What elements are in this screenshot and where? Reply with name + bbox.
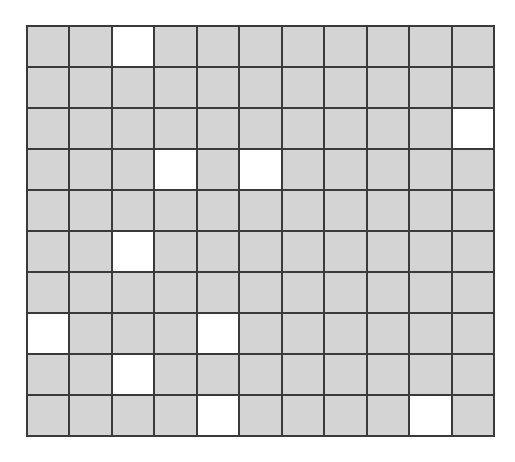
grid-cell-filled xyxy=(367,108,409,149)
grid-cell-filled xyxy=(197,190,239,231)
grid-cell-filled xyxy=(324,313,366,354)
grid-cell-filled xyxy=(452,26,494,67)
grid-cell-filled xyxy=(282,108,324,149)
grid-cell-filled xyxy=(409,190,451,231)
grid-cell-filled xyxy=(367,231,409,272)
grid-cell-filled xyxy=(239,26,281,67)
grid-cell-filled xyxy=(452,272,494,313)
grid-cell-filled xyxy=(409,26,451,67)
grid-cell-filled xyxy=(69,108,111,149)
grid-cell-filled xyxy=(27,272,69,313)
grid-cell-filled xyxy=(112,313,154,354)
grid-cell-filled xyxy=(27,395,69,436)
grid-cell-filled xyxy=(69,231,111,272)
grid-cell-filled xyxy=(452,354,494,395)
grid-cell-filled xyxy=(282,272,324,313)
grid-cell-filled xyxy=(69,272,111,313)
grid-cell-filled xyxy=(324,231,366,272)
grid-cell-filled xyxy=(69,26,111,67)
grid-cell-filled xyxy=(27,108,69,149)
grid-cell-filled xyxy=(324,395,366,436)
grid-cell-filled xyxy=(239,395,281,436)
grid-cell-filled xyxy=(282,26,324,67)
grid-cell-filled xyxy=(282,67,324,108)
grid-cell-filled xyxy=(367,395,409,436)
grid-cell-filled xyxy=(154,354,196,395)
grid-cell-filled xyxy=(367,149,409,190)
grid-cell-filled xyxy=(27,149,69,190)
grid-cell-filled xyxy=(154,313,196,354)
grid-cell-filled xyxy=(409,108,451,149)
grid-cell-filled xyxy=(69,395,111,436)
grid-cell-filled xyxy=(69,190,111,231)
grid-cell-filled xyxy=(112,395,154,436)
grid-cell-filled xyxy=(282,354,324,395)
grid-cell-filled xyxy=(69,67,111,108)
grid-cell-filled xyxy=(324,26,366,67)
grid-cell-filled xyxy=(324,272,366,313)
grid-cell-filled xyxy=(154,190,196,231)
grid-cell-filled xyxy=(452,149,494,190)
grid-cell-filled xyxy=(27,26,69,67)
grid-cell-filled xyxy=(27,190,69,231)
grid-cell-filled xyxy=(27,231,69,272)
grid-cell-filled xyxy=(27,67,69,108)
grid-cell-filled xyxy=(367,354,409,395)
grid-cell-filled xyxy=(324,108,366,149)
grid-cell-empty xyxy=(239,149,281,190)
grid-cell-empty xyxy=(409,395,451,436)
grid-cell-filled xyxy=(197,354,239,395)
grid-cell-filled xyxy=(452,313,494,354)
grid-cell-filled xyxy=(282,313,324,354)
grid-cell-filled xyxy=(112,108,154,149)
grid-cell-filled xyxy=(367,313,409,354)
grid-cell-filled xyxy=(324,149,366,190)
grid-cell-empty xyxy=(154,149,196,190)
grid-cell-filled xyxy=(154,67,196,108)
grid-cell-filled xyxy=(367,26,409,67)
grid-cell-filled xyxy=(27,354,69,395)
grid-cell-filled xyxy=(112,272,154,313)
grid-cell-filled xyxy=(239,67,281,108)
grid-cell-filled xyxy=(367,67,409,108)
grid-cell-filled xyxy=(409,149,451,190)
grid-cell-empty xyxy=(27,313,69,354)
grid-cell-empty xyxy=(452,108,494,149)
grid-cell-filled xyxy=(239,108,281,149)
grid-cell-filled xyxy=(452,67,494,108)
grid-cell-filled xyxy=(69,313,111,354)
grid-cell-filled xyxy=(409,67,451,108)
grid-cell-filled xyxy=(69,354,111,395)
grid-cell-filled xyxy=(154,272,196,313)
grid-cell-filled xyxy=(282,231,324,272)
grid-cell-filled xyxy=(324,354,366,395)
grid-cell-filled xyxy=(324,67,366,108)
grid-cell-filled xyxy=(409,231,451,272)
grid-cell-empty xyxy=(112,231,154,272)
grid-cell-filled xyxy=(239,354,281,395)
grid-cell-filled xyxy=(112,67,154,108)
grid-cell-filled xyxy=(154,395,196,436)
grid-container xyxy=(26,25,495,437)
grid-cell-filled xyxy=(452,395,494,436)
grid-cell-filled xyxy=(154,108,196,149)
grid-cell-filled xyxy=(112,190,154,231)
grid-cell-filled xyxy=(409,272,451,313)
grid-cell-filled xyxy=(282,190,324,231)
grid-cell-filled xyxy=(282,395,324,436)
grid-cell-filled xyxy=(69,149,111,190)
grid-cell-filled xyxy=(239,190,281,231)
grid-cell-filled xyxy=(324,190,366,231)
grid-cell-filled xyxy=(239,272,281,313)
grid-cell-filled xyxy=(197,67,239,108)
grid-cell-empty xyxy=(197,313,239,354)
grid-cell-filled xyxy=(154,231,196,272)
grid-cell-filled xyxy=(367,190,409,231)
grid-cell-filled xyxy=(409,354,451,395)
grid-cell-filled xyxy=(112,149,154,190)
grid-cell-filled xyxy=(239,313,281,354)
grid-cell-filled xyxy=(452,231,494,272)
grid-cell-filled xyxy=(154,26,196,67)
grid-cell-filled xyxy=(197,231,239,272)
grid-cell-filled xyxy=(197,26,239,67)
